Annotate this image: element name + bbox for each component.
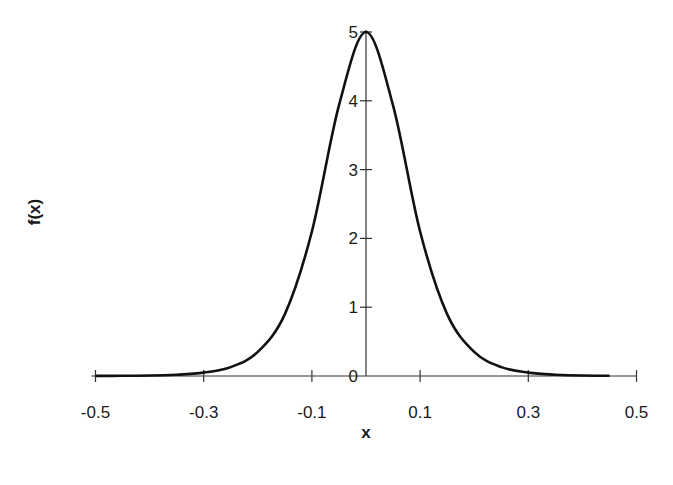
- y-tick-label: 2: [349, 229, 358, 248]
- x-tick-label: 0.1: [408, 403, 432, 422]
- y-tick-label: 4: [349, 92, 358, 111]
- y-axis: 012345: [349, 23, 372, 386]
- x-tick-label: 0.3: [516, 403, 540, 422]
- chart: -0.5-0.3-0.10.10.30.5 012345 x f(x): [0, 0, 673, 485]
- x-axis-title: x: [361, 423, 371, 442]
- y-tick-label: 0: [349, 367, 358, 386]
- y-tick-label: 5: [349, 23, 358, 42]
- x-tick-label: 0.5: [625, 403, 649, 422]
- density-curve: [96, 32, 610, 376]
- y-tick-label: 3: [349, 161, 358, 180]
- x-tick-label: -0.5: [81, 403, 110, 422]
- y-tick-label: 1: [349, 298, 358, 317]
- x-axis: -0.5-0.3-0.10.10.30.5: [81, 370, 648, 422]
- y-axis-title: f(x): [25, 199, 44, 225]
- x-tick-label: -0.1: [297, 403, 326, 422]
- x-tick-label: -0.3: [189, 403, 218, 422]
